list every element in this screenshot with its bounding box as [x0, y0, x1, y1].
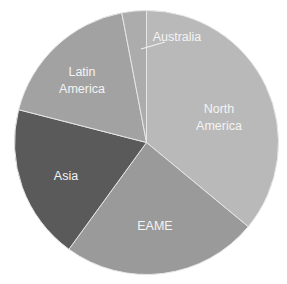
- slice-label-asia: Asia: [54, 169, 78, 183]
- pie-chart: NorthAmericaEAMEAsiaLatinAmericaAustrali…: [0, 0, 287, 284]
- slice-label-australia: Australia: [153, 30, 202, 44]
- slice-label-eame: EAME: [137, 219, 172, 233]
- pie-slices: [15, 11, 279, 275]
